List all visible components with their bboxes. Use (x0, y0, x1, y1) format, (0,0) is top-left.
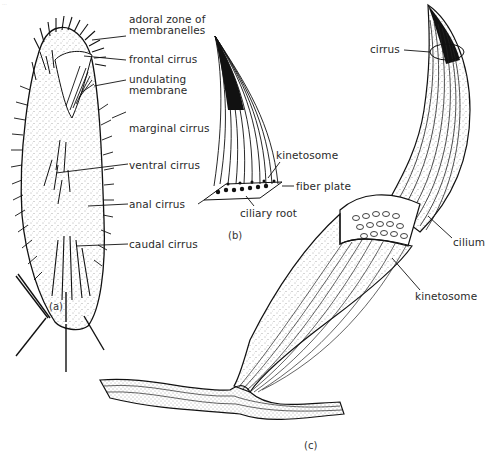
label-kinetosome-c: kinetosome (415, 291, 477, 302)
panel-b-cirrus-drawing (198, 36, 294, 206)
label-anal-cirrus: anal cirrus (129, 199, 185, 210)
panel-a-cell-drawing (11, 16, 128, 372)
label-ciliary-root: ciliary root (240, 208, 297, 219)
label-frontal-cirrus: frontal cirrus (129, 54, 197, 65)
label-undulating-line2: membrane (129, 85, 187, 96)
label-fiber-plate: fiber plate (296, 181, 351, 192)
panel-label-c: (c) (304, 440, 317, 451)
panel-label-a: (a) (49, 301, 63, 312)
label-cilium: cilium (453, 237, 485, 248)
label-marginal-cirrus: marginal cirrus (129, 123, 210, 134)
panel-label-b: (b) (228, 230, 242, 241)
label-ventral-cirrus: ventral cirrus (129, 160, 200, 171)
label-cirrus: cirrus (370, 44, 400, 55)
label-adoral-zone: adoral zone of membranelles (129, 14, 205, 36)
label-adoral-zone-line2: membranelles (129, 25, 205, 36)
label-undulating-membrane: undulating membrane (129, 74, 187, 96)
label-kinetosome-b: kinetosome (276, 150, 338, 161)
label-caudal-cirrus: caudal cirrus (129, 239, 198, 250)
